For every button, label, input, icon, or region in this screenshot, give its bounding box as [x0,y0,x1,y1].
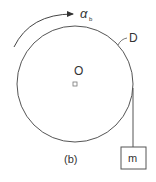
alpha-label: α [80,6,88,21]
center-label: O [74,64,83,78]
diagram-canvas: α b D O m (b) [0,0,156,182]
alpha-subscript: b [89,16,93,22]
center-pin [73,82,77,86]
disk-label: D [129,31,138,45]
figure-caption: (b) [64,153,77,165]
mass-label: m [128,152,137,164]
disk-leader-line [118,38,127,45]
rotation-arrow-icon [14,14,73,47]
disk-circle [17,26,133,142]
pulley-diagram: α b D O m (b) [0,0,156,182]
